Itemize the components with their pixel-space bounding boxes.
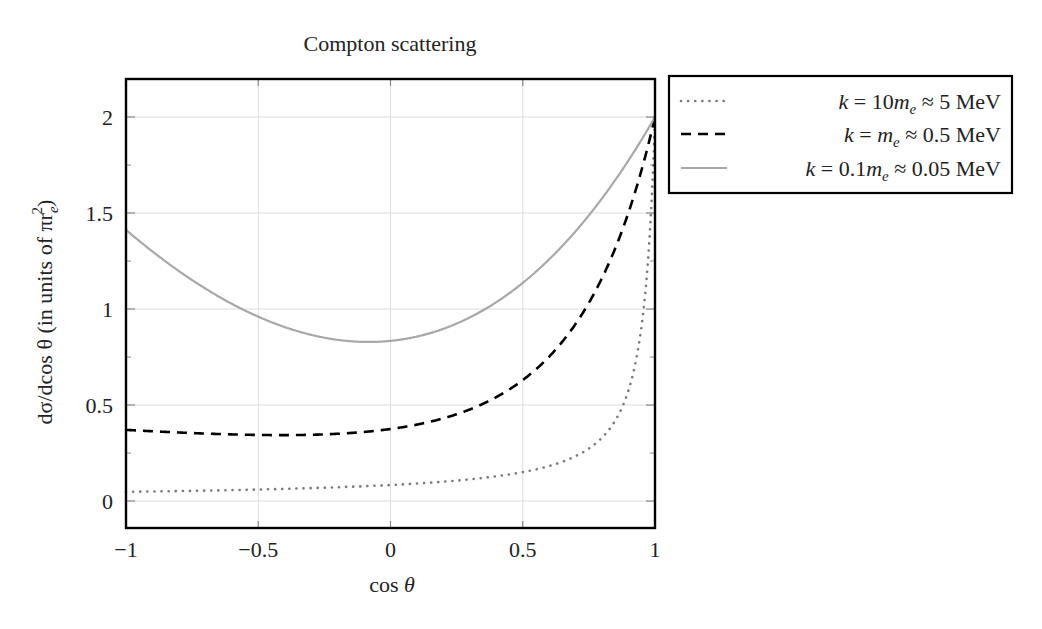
chart-title: Compton scattering [304, 31, 477, 56]
y-tick-label: 0 [102, 489, 113, 514]
gridlines [126, 79, 655, 528]
x-tick-label: 0.5 [509, 537, 537, 562]
legend-label: k = 10me ≈ 5 MeV [838, 89, 1001, 117]
x-tick-label: 0 [385, 537, 396, 562]
plot-area [126, 79, 655, 528]
y-tick-label: 1.5 [86, 201, 114, 226]
x-tick-label: 1 [650, 537, 661, 562]
legend-label: k = 0.1me ≈ 0.05 MeV [805, 156, 1001, 184]
x-tick-label: −0.5 [238, 537, 278, 562]
x-tick-label: −1 [114, 537, 137, 562]
y-tick-label: 1 [102, 297, 113, 322]
y-tick-label: 2 [102, 105, 113, 130]
legend-label: k = me ≈ 0.5 MeV [844, 122, 1001, 150]
legend: k = 10me ≈ 5 MeVk = me ≈ 0.5 MeVk = 0.1m… [669, 76, 1012, 193]
y-tick-label: 0.5 [86, 393, 114, 418]
chart: Compton scattering −1−0.500.51 00.511.52… [0, 0, 1042, 629]
x-tick-labels: −1−0.500.51 [114, 537, 660, 562]
x-axis-label: cos θ [369, 572, 415, 597]
y-axis-label: dσ/dcos θ (in units of πre2) [29, 200, 61, 425]
y-tick-labels: 00.511.52 [86, 105, 114, 514]
